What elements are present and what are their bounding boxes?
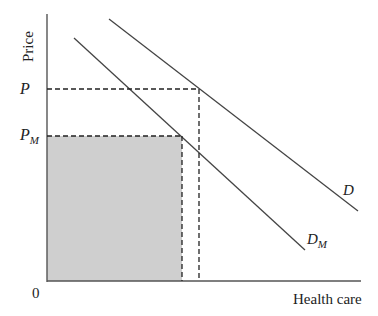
origin-label: 0 (32, 285, 40, 302)
price-pm-sub: M (30, 134, 39, 146)
y-axis-label: Price (20, 31, 37, 62)
curve-dm-label: DM (307, 231, 327, 250)
price-pm-label: PM (20, 126, 39, 146)
shaded-spending-region (47, 136, 182, 281)
price-p-label: P (20, 80, 30, 98)
price-pm-base: P (20, 126, 30, 143)
curve-dm-base: D (307, 231, 318, 247)
x-axis-label: Health care (293, 291, 362, 308)
curve-d-label: D (343, 182, 354, 199)
curve-dm-sub: M (318, 238, 327, 250)
chart-canvas (0, 0, 378, 316)
